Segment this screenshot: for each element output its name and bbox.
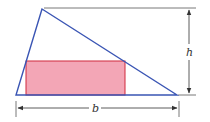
inscribed-rectangle	[26, 61, 125, 95]
triangle-rectangle-diagram: h b	[0, 0, 210, 122]
base-label: b	[92, 102, 99, 115]
height-label: h	[186, 46, 193, 59]
